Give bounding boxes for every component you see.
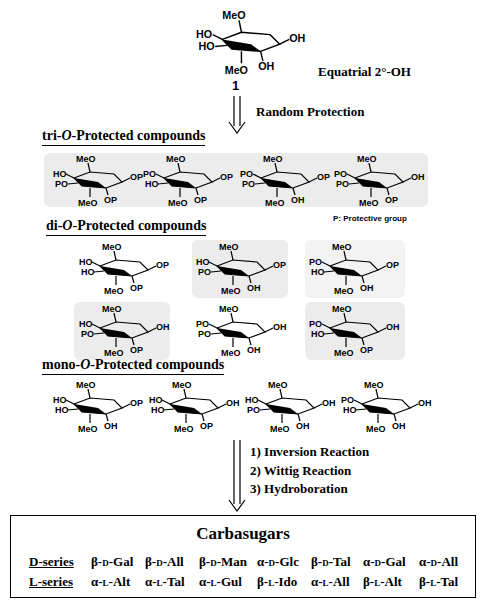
svg-text:OH: OH [104,421,118,431]
svg-text:OP: OP [317,172,330,182]
tri-compound-3: MeO PO PO MeO OH OP [239,152,331,210]
svg-text:MeO: MeO [268,380,288,390]
svg-text:MeO: MeO [102,242,122,252]
protective-group-note: P: Protective group [333,214,407,223]
svg-text:MeO: MeO [221,286,241,296]
svg-text:OH: OH [156,322,170,332]
svg-text:MeO: MeO [270,424,290,434]
svg-text:OP: OP [200,421,213,431]
svg-text:PO: PO [198,329,211,339]
carbasugars-title: Carbasugars [11,524,475,544]
mono-compound-3: MeO HO PO MeO OH OH [244,378,336,436]
mono-compound-1: MeO HO HO MeO OH OP [52,378,144,436]
l-series-sugar-item: β-l-Tal [419,574,475,590]
svg-text:HO: HO [145,179,159,189]
svg-text:MeO: MeO [104,348,124,358]
down-arrow-icon [226,96,248,134]
svg-text:OP: OP [130,283,143,293]
svg-text:HO: HO [53,169,67,179]
svg-text:HO: HO [53,395,67,405]
svg-text:OP: OP [156,260,169,270]
svg-text:OH: OH [296,421,310,431]
svg-text:OP: OP [130,398,143,408]
svg-text:MeO: MeO [364,380,384,390]
di-compound-1: MeO HO HO MeO OP OP [78,240,170,298]
d-series-sugar-item: β-d-Gal [91,554,145,570]
svg-text:MeO: MeO [225,64,248,76]
svg-text:OH: OH [322,398,336,408]
svg-text:MeO: MeO [166,154,186,164]
l-series-sugar-item: α-l-Alt [91,574,145,590]
di-compound-5: MeO PO PO MeO OH OH [195,302,287,360]
svg-text:MeO: MeO [219,242,239,252]
d-series-label: D-series [29,554,91,570]
l-series-sugar-item: β-l-Alt [363,574,419,590]
l-series-sugar-item: α-l-Tal [145,574,199,590]
di-compound-4: MeO HO PO MeO OP OH [78,302,170,360]
step-inversion: 1) Inversion Reaction [250,444,369,460]
svg-text:HO: HO [245,395,259,405]
svg-text:HO: HO [196,257,210,267]
svg-text:OH: OH [273,322,287,332]
svg-text:MeO: MeO [265,198,285,208]
svg-text:OP: OP [385,195,398,205]
di-section-title: di-O-Protected compounds [46,218,206,236]
di-compound-2: MeO HO PO MeO OH OP [195,240,287,298]
d-series-sugar-item: β-d-All [145,554,199,570]
l-series-label: L-series [29,574,91,590]
svg-text:PO: PO [196,319,209,329]
svg-text:MeO: MeO [104,286,124,296]
svg-text:HO: HO [55,405,69,415]
tri-compound-4: MeO PO PO MeO OP OH [333,152,425,210]
svg-text:MeO: MeO [76,154,96,164]
d-series-sugar-item: α-d-All [419,554,475,570]
svg-text:MeO: MeO [78,198,98,208]
svg-text:PO: PO [309,319,322,329]
svg-text:OP: OP [194,195,207,205]
l-series-sugar-item: α-l-Gul [199,574,257,590]
svg-text:OH: OH [247,345,261,355]
svg-text:MeO: MeO [263,154,283,164]
svg-text:HO: HO [149,395,163,405]
svg-text:OH: OH [258,61,274,73]
carbasugars-box: Carbasugars D-series β-d-Galβ-d-Allβ-d-M… [10,515,476,598]
svg-text:OP: OP [273,260,286,270]
svg-text:HO: HO [311,329,325,339]
svg-text:MeO: MeO [168,198,188,208]
tri-compound-1: MeO HO PO MeO OP OP [52,152,144,210]
d-series-sugar-item: β-d-Man [199,554,257,570]
d-series-sugar-item: α-d-Gal [363,554,419,570]
svg-text:OP: OP [130,345,143,355]
svg-text:HO: HO [311,267,325,277]
svg-text:OH: OH [226,398,240,408]
down-arrow-icon [226,440,248,512]
svg-text:PO: PO [334,169,347,179]
svg-text:PO: PO [240,169,253,179]
svg-text:OH: OH [291,195,305,205]
svg-text:HO: HO [198,40,214,52]
svg-text:OH: OH [411,172,425,182]
svg-text:PO: PO [198,267,211,277]
svg-text:MeO: MeO [174,424,194,434]
equatorial-oh-label: Equatrial 2°-OH [318,64,411,80]
svg-text:OH: OH [392,421,406,431]
svg-text:MeO: MeO [357,154,377,164]
svg-text:OH: OH [418,398,432,408]
l-series-sugar-item: α-l-All [311,574,363,590]
d-series-row: D-series β-d-Galβ-d-Allβ-d-Manα-d-Glcβ-d… [29,554,475,570]
svg-text:OH: OH [247,283,261,293]
d-series-sugar-item: β-d-Tal [311,554,363,570]
d-series-sugar-item: α-d-Glc [257,554,311,570]
svg-text:MeO: MeO [366,424,386,434]
random-protection-label: Random Protection [256,104,364,120]
compound-1-top-sub: MeO [222,9,245,21]
svg-text:HO: HO [151,405,165,415]
svg-text:PO: PO [143,169,156,179]
svg-text:HO: HO [196,28,212,40]
svg-text:MeO: MeO [78,424,98,434]
svg-text:MeO: MeO [102,304,122,314]
mono-compound-2: MeO HO HO MeO OP OH [148,378,240,436]
svg-text:PO: PO [55,179,68,189]
di-compound-3: MeO PO HO MeO OH OP [308,240,400,298]
svg-text:MeO: MeO [172,380,192,390]
